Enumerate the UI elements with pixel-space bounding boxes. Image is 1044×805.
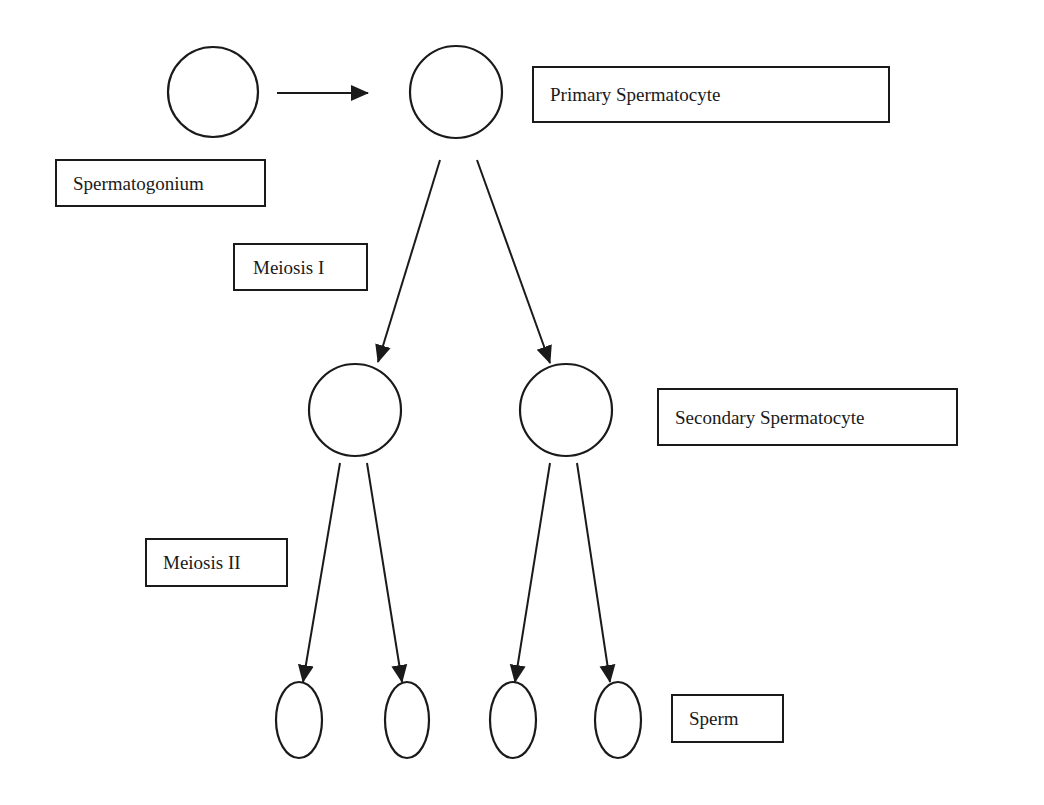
arrow-meiosis1-left bbox=[378, 160, 440, 362]
label-primary-spermatocyte-text: Primary Spermatocyte bbox=[550, 85, 720, 104]
label-sperm: Sperm bbox=[671, 694, 784, 743]
arrow-meiosis2-4 bbox=[577, 463, 610, 682]
arrow-meiosis2-2 bbox=[367, 463, 402, 682]
arrow-meiosis1-right bbox=[477, 160, 550, 363]
label-primary-spermatocyte: Primary Spermatocyte bbox=[532, 66, 890, 123]
secondary-spermatocyte-cell-2 bbox=[520, 364, 612, 456]
sperm-cell-3 bbox=[490, 682, 536, 758]
secondary-spermatocyte-cell-1 bbox=[309, 364, 401, 456]
primary-spermatocyte-cell bbox=[410, 46, 502, 138]
sperm-cell-4 bbox=[595, 682, 641, 758]
label-secondary-spermatocyte: Secondary Spermatocyte bbox=[657, 388, 958, 446]
label-secondary-spermatocyte-text: Secondary Spermatocyte bbox=[675, 408, 864, 427]
arrow-meiosis2-1 bbox=[303, 463, 340, 682]
spermatogonium-cell bbox=[168, 47, 258, 137]
label-meiosis-2-text: Meiosis II bbox=[163, 553, 241, 572]
label-spermatogonium: Spermatogonium bbox=[55, 159, 266, 207]
label-spermatogonium-text: Spermatogonium bbox=[73, 174, 204, 193]
sperm-cell-2 bbox=[385, 682, 429, 758]
label-meiosis-1-text: Meiosis I bbox=[253, 258, 324, 277]
label-sperm-text: Sperm bbox=[689, 709, 739, 728]
label-meiosis-2: Meiosis II bbox=[145, 538, 288, 587]
sperm-cell-1 bbox=[276, 682, 322, 758]
arrow-meiosis2-3 bbox=[515, 463, 550, 682]
label-meiosis-1: Meiosis I bbox=[233, 243, 368, 291]
